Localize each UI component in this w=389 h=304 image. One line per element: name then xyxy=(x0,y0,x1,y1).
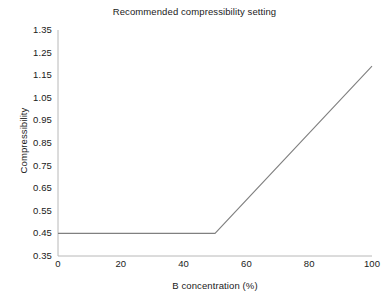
data-series-polyline xyxy=(58,66,372,233)
xtick-label-100: 100 xyxy=(352,258,389,269)
chart-container: Recommended compressibility setting 1.35… xyxy=(0,0,389,304)
ytick-label-1-35: 1.35 xyxy=(18,24,52,35)
axis-spines xyxy=(58,30,372,256)
xtick-label-60: 60 xyxy=(226,258,266,269)
y-axis-title: Compressibility xyxy=(18,66,29,216)
xtick-label-20: 20 xyxy=(101,258,141,269)
xtick-label-40: 40 xyxy=(164,258,204,269)
xtick-label-80: 80 xyxy=(289,258,329,269)
ytick-label-1-25: 1.25 xyxy=(18,47,52,58)
ytick-label-0-45: 0.45 xyxy=(18,227,52,238)
x-axis-title: B concentration (%) xyxy=(58,280,372,291)
xtick-label-0: 0 xyxy=(38,258,78,269)
data-series-line xyxy=(58,66,372,233)
